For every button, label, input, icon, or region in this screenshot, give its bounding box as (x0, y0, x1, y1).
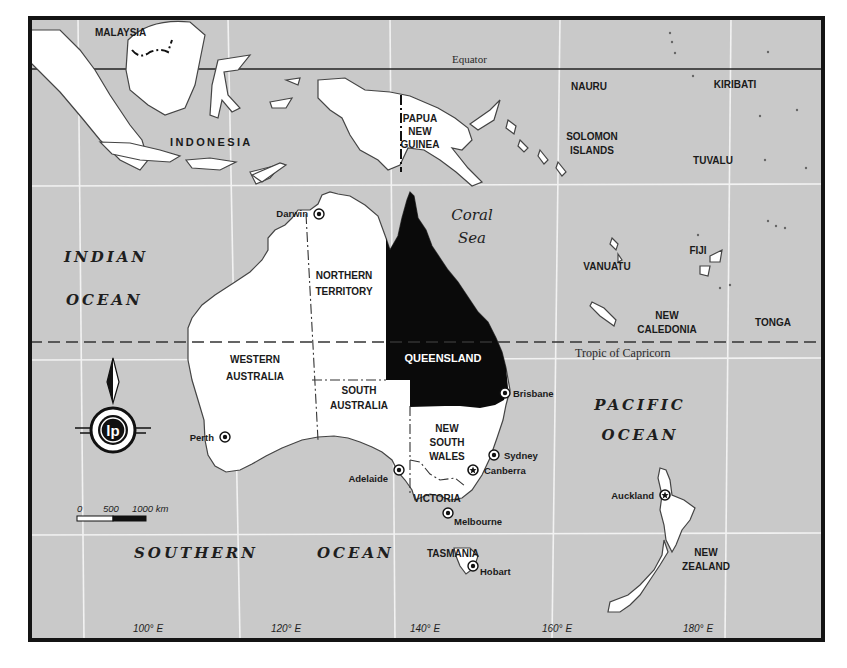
city-label-auckland: Auckland (611, 490, 654, 501)
city-label-canberra: Canberra (484, 465, 526, 476)
city-perth: Perth (190, 432, 230, 443)
label-nt-1: NORTHERN (316, 270, 373, 281)
label-solomon-2: ISLANDS (570, 145, 614, 156)
lon-180: 180° E (683, 623, 713, 634)
label-nz-1: NEW (694, 547, 718, 558)
label-victoria: VICTORIA (413, 493, 461, 504)
label-southern-ocean-1: SOUTHERN (134, 544, 258, 562)
label-pacific-ocean-2: OCEAN (602, 426, 679, 444)
label-tasmania: TASMANIA (427, 548, 479, 559)
label-nauru: NAURU (571, 81, 607, 92)
map-australia-oceania: Equator (0, 0, 847, 668)
label-wa-1: WESTERN (230, 354, 280, 365)
label-newcal-1: NEW (655, 310, 679, 321)
label-kiribati: KIRIBATI (714, 79, 757, 90)
label-tonga: TONGA (755, 317, 791, 328)
city-auckland: Auckland (611, 490, 670, 501)
label-png-2: NEW (408, 126, 432, 137)
equator-label: Equator (452, 53, 487, 65)
city-darwin: Darwin (276, 208, 324, 219)
label-indonesia: INDONESIA (170, 136, 253, 148)
label-sa-2: AUSTRALIA (330, 400, 388, 411)
label-nz-2: ZEALAND (682, 561, 730, 572)
lon-160: 160° E (542, 623, 572, 634)
label-nsw-1: NEW (435, 423, 459, 434)
label-png-3: GUINEA (401, 139, 440, 150)
scale-label-500: 500 (103, 503, 120, 514)
label-nsw-3: WALES (429, 451, 465, 462)
lonely-planet-logo: lp (106, 422, 119, 439)
label-fiji: FIJI (689, 245, 706, 256)
scale-label-0: 0 (77, 503, 83, 514)
scale-label-1000: 1000 km (132, 503, 169, 514)
lon-120: 120° E (271, 623, 301, 634)
city-sydney: Sydney (489, 450, 539, 461)
label-indian-ocean-1: INDIAN (63, 248, 148, 266)
lon-100: 100° E (133, 623, 163, 634)
tropic-label: Tropic of Capricorn (575, 346, 671, 360)
label-tuvalu: TUVALU (693, 155, 733, 166)
label-vanuatu: VANUATU (583, 261, 630, 272)
label-southern-ocean-2: OCEAN (317, 544, 394, 562)
city-label-hobart: Hobart (480, 566, 511, 577)
label-coral-sea-2: Sea (458, 229, 486, 247)
city-label-perth: Perth (190, 432, 214, 443)
label-solomon-1: SOLOMON (566, 131, 618, 142)
city-label-adelaide: Adelaide (348, 473, 388, 484)
city-label-darwin: Darwin (276, 208, 308, 219)
label-wa-2: AUSTRALIA (226, 371, 284, 382)
label-nt-2: TERRITORY (315, 286, 373, 297)
label-nsw-2: SOUTH (430, 437, 465, 448)
city-label-sydney: Sydney (504, 450, 539, 461)
city-brisbane: Brisbane (500, 388, 554, 399)
city-canberra: Canberra (468, 465, 526, 476)
label-coral-sea-1: Coral (451, 206, 493, 224)
city-label-melbourne: Melbourne (454, 516, 502, 527)
label-sa-1: SOUTH (342, 385, 377, 396)
label-malaysia: MALAYSIA (95, 27, 146, 38)
label-queensland: QUEENSLAND (404, 352, 481, 364)
lon-140: 140° E (410, 623, 440, 634)
label-newcal-2: CALEDONIA (637, 324, 696, 335)
label-indian-ocean-2: OCEAN (66, 291, 143, 309)
label-pacific-ocean-1: PACIFIC (593, 396, 685, 414)
city-label-brisbane: Brisbane (513, 388, 554, 399)
label-png-1: PAPUA (403, 113, 437, 124)
